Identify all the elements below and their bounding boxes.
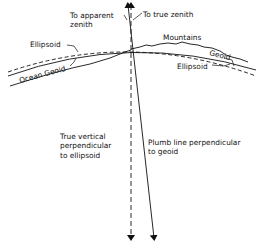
- mountains-profile: [131, 42, 248, 62]
- leader-true-zenith: [133, 13, 142, 20]
- plumb-line: [128, 5, 154, 238]
- label-true-vertical-1: True vertical: [59, 132, 106, 141]
- deflection-of-vertical-diagram: To apparent zenith To true zenith Mounta…: [0, 0, 261, 243]
- leader-ellipsoid-left: [67, 45, 78, 52]
- label-geoid-right: Geoid: [209, 48, 232, 62]
- label-ellipsoid-right: Ellipsoid: [177, 62, 208, 71]
- label-plumb-line-2: to geoid: [148, 147, 179, 156]
- label-true-zenith: To true zenith: [142, 10, 194, 19]
- label-true-vertical-3: to ellipsoid: [60, 151, 101, 160]
- leader-apparent-zenith: [124, 15, 127, 20]
- label-ocean-geoid: Ocean Geoid: [18, 64, 67, 85]
- label-true-vertical-2: perpendicular: [60, 141, 112, 150]
- label-mountains: Mountains: [163, 33, 201, 42]
- label-plumb-line-1: Plumb line perpendicular: [148, 138, 241, 147]
- label-apparent-zenith-2: zenith: [70, 20, 93, 29]
- label-apparent-zenith-1: To apparent: [69, 11, 114, 20]
- label-ellipsoid-left: Ellipsoid: [30, 40, 61, 49]
